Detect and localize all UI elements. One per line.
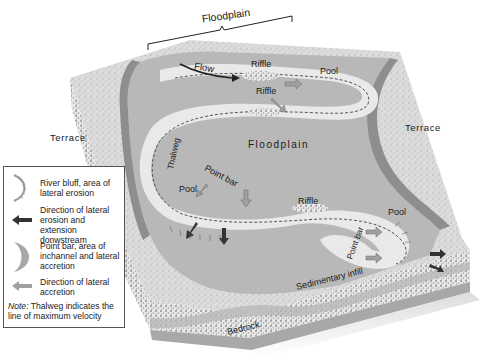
- legend-text-erosion-direction: Direction of lateral erosion and extensi…: [40, 205, 124, 245]
- label-pool-lower-right: Pool: [388, 207, 406, 217]
- label-riffle-lower: Riffle: [298, 196, 318, 206]
- light-arrow-icon: [8, 279, 36, 293]
- legend-note-label: Note:: [8, 301, 29, 311]
- dark-arrow-icon: [8, 213, 36, 227]
- legend-text-accretion-direction: Direction of lateral accretion: [40, 277, 124, 297]
- river-bluff-icon: [8, 173, 36, 203]
- legend-text-point-bar: Point bar, area of inchannel and lateral…: [40, 241, 124, 271]
- label-floodplain-top: Floodplain: [201, 6, 251, 25]
- riffle-middle: [248, 108, 282, 116]
- legend-note: Note: Thalweg indicates the line of maxi…: [8, 301, 124, 321]
- label-riffle-top: Riffle: [251, 59, 271, 69]
- label-pool-left: Pool: [179, 184, 197, 194]
- label-riffle-middle: Riffle: [256, 86, 276, 96]
- label-floodplain-center: Floodplain: [248, 139, 309, 150]
- legend: River bluff, area of lateral erosion Dir…: [3, 166, 125, 328]
- point-bar-crescent-icon: [8, 241, 36, 273]
- riffle-top: [242, 71, 278, 81]
- label-terrace-left: Terrace: [50, 132, 86, 143]
- label-terrace-right: Terrace: [405, 122, 441, 133]
- legend-text-river-bluff: River bluff, area of lateral erosion: [40, 178, 124, 198]
- label-pool-upper-right: Pool: [320, 66, 338, 76]
